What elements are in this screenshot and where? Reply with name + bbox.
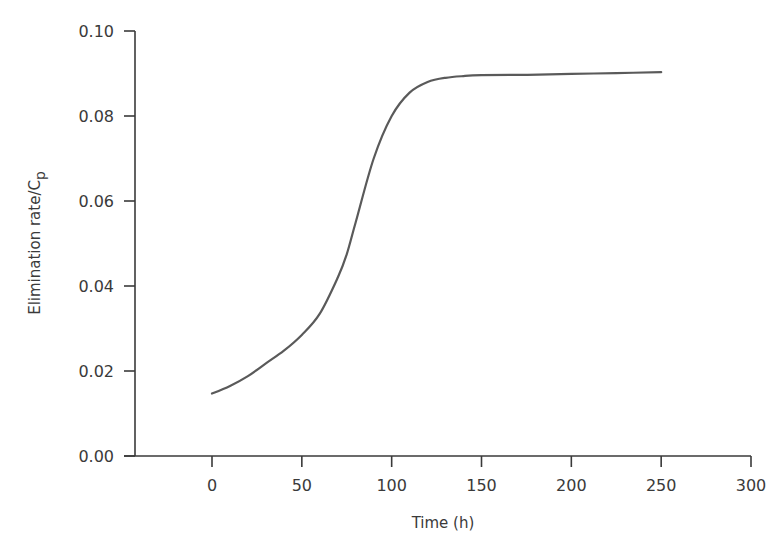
x-tick-label: 50 [292,476,312,495]
x-axis: 050100150200250300 [124,456,766,495]
y-tick-label: 0.02 [78,362,114,381]
y-tick-label: 0.10 [78,22,114,41]
y-tick-label: 0.04 [78,277,114,296]
y-tick-label: 0.06 [78,192,114,211]
x-tick-label: 150 [466,476,497,495]
x-tick-label: 200 [556,476,587,495]
y-tick-label: 0.08 [78,107,114,126]
x-tick-label: 250 [646,476,677,495]
y-axis-title-subscript: p [32,171,48,180]
y-axis: 0.000.020.040.060.080.10 [78,22,135,466]
y-axis-title-main: Elimination rate/C [26,180,44,315]
y-tick-label: 0.00 [78,447,114,466]
x-tick-label: 0 [207,476,217,495]
chart: 0.000.020.040.060.080.10 050100150200250… [0,0,780,544]
x-axis-title: Time (h) [411,514,475,532]
x-tick-label: 100 [376,476,407,495]
y-axis-title: Elimination rate/Cp [26,171,48,315]
elimination-rate-curve [212,72,661,393]
x-tick-label: 300 [736,476,767,495]
